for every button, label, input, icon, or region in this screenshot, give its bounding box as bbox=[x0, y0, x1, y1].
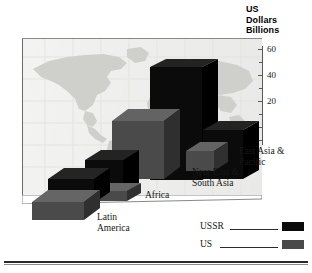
chart-figure: US Dollars Billions 60 40 20 bbox=[0, 0, 312, 273]
legend-leader-line-ussr bbox=[230, 229, 278, 230]
axis-title-line-1: US bbox=[246, 4, 308, 15]
group-label-near-east-south-asia: Near East & South Asia bbox=[192, 167, 239, 189]
y-tick-minor-10 bbox=[259, 114, 263, 115]
y-tick-minor-50 bbox=[259, 62, 263, 63]
group-label-latin-america-line-1: Latin bbox=[97, 212, 130, 223]
group-label-latin-america-line-2: America bbox=[97, 223, 130, 234]
group-label-africa: Africa bbox=[145, 190, 169, 201]
bar-latin-america-us bbox=[32, 190, 100, 226]
y-tick-40 bbox=[258, 75, 263, 76]
y-tick-minor-base bbox=[259, 140, 263, 141]
legend-item-us[interactable]: US bbox=[200, 239, 304, 252]
y-tick-label-40: 40 bbox=[267, 71, 276, 80]
legend-swatch-us bbox=[282, 240, 304, 249]
y-tick-minor-0 bbox=[259, 127, 263, 128]
axis-title-line-3: Billions bbox=[246, 25, 308, 36]
legend-item-ussr[interactable]: USSR bbox=[200, 221, 304, 234]
footer-rule-shadow bbox=[4, 264, 308, 265]
y-tick-minor-30 bbox=[259, 88, 263, 89]
y-axis-line bbox=[262, 46, 263, 145]
group-label-near-east-line-2: South Asia bbox=[192, 178, 239, 189]
group-label-latin-america: Latin America bbox=[97, 212, 130, 234]
y-tick-20 bbox=[258, 101, 263, 102]
group-label-east-asia-pacific: East Asia & Pacific bbox=[239, 146, 284, 168]
y-tick-label-20: 20 bbox=[267, 97, 276, 106]
group-label-near-east-line-1: Near East & bbox=[192, 167, 239, 178]
y-tick-label-60: 60 bbox=[267, 45, 276, 54]
group-label-east-asia-line-2: Pacific bbox=[239, 157, 284, 168]
legend: USSR US bbox=[200, 221, 304, 253]
y-tick-60 bbox=[258, 49, 263, 50]
footer-rule bbox=[4, 261, 308, 263]
axis-title-line-2: Dollars bbox=[246, 15, 308, 26]
group-label-east-asia-line-1: East Asia & bbox=[239, 146, 284, 157]
axis-title: US Dollars Billions bbox=[246, 4, 308, 36]
legend-label-us: US bbox=[200, 239, 212, 250]
legend-swatch-ussr bbox=[282, 222, 304, 231]
group-label-africa-line-1: Africa bbox=[145, 190, 169, 201]
legend-label-ussr: USSR bbox=[200, 221, 224, 232]
legend-leader-line-us bbox=[220, 247, 278, 248]
